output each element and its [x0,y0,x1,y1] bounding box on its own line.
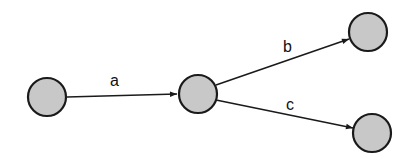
edge-label-b: b [283,38,292,55]
graph-diagram: a b c [0,0,410,163]
edge-label-c: c [286,96,294,113]
edge-c [216,100,353,128]
edge-a [67,94,177,97]
node-target-c [353,114,391,152]
edge-label-a: a [110,72,119,89]
node-source [28,78,66,116]
node-target-b [349,13,387,51]
node-middle [179,75,217,113]
